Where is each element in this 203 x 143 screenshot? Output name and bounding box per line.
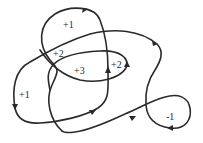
label-center-right: +2 xyxy=(111,59,122,70)
label-center: +3 xyxy=(74,65,85,76)
arrow-left-down xyxy=(12,104,18,110)
curve-top-loop xyxy=(15,8,108,131)
winding-number-diagram: +1 +2 +3 +2 +1 -1 xyxy=(0,0,203,143)
label-top-loop: +1 xyxy=(63,19,74,30)
arrow-bottom-2 xyxy=(129,116,136,121)
label-upper-left: +2 xyxy=(53,48,64,59)
arrow-inner-right xyxy=(124,61,130,67)
label-left: +1 xyxy=(19,89,30,100)
curve-outer-sweep xyxy=(14,31,191,133)
arrow-right-loop xyxy=(167,125,173,131)
label-right-loop: -1 xyxy=(166,111,174,122)
